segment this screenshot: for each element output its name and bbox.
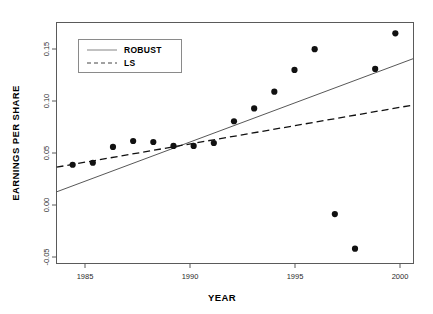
y-axis-tick-labels: 0.15 0.10 0.05 0.00 -0.05 <box>42 42 51 266</box>
data-point <box>372 66 378 72</box>
data-point <box>251 105 257 111</box>
robust-fit-line <box>57 59 414 192</box>
x-tick-label-3: 2000 <box>392 272 409 281</box>
fit-lines <box>57 59 414 192</box>
y-tick-label-1: 0.10 <box>42 94 51 109</box>
y-axis-ticks <box>52 49 57 257</box>
legend-label-ls: LS <box>124 58 135 68</box>
x-axis-tick-labels: 1985 1990 1995 2000 <box>77 272 409 281</box>
data-point <box>211 140 217 146</box>
ls-fit-line <box>57 105 414 167</box>
data-point <box>271 89 277 95</box>
data-point <box>191 143 197 149</box>
y-tick-label-4: -0.05 <box>42 248 51 265</box>
data-point <box>332 211 338 217</box>
data-point <box>352 246 358 252</box>
x-tick-label-1: 1990 <box>182 272 199 281</box>
data-point <box>291 67 297 73</box>
data-point <box>392 30 398 36</box>
legend-label-robust: ROBUST <box>124 45 162 55</box>
y-tick-label-0: 0.15 <box>42 42 51 57</box>
x-tick-label-2: 1995 <box>287 272 304 281</box>
data-point <box>150 139 156 145</box>
x-axis-ticks <box>85 264 400 269</box>
data-point <box>110 144 116 150</box>
data-point <box>130 138 136 144</box>
data-point <box>90 160 96 166</box>
data-point <box>231 118 237 124</box>
y-tick-label-2: 0.05 <box>42 146 51 161</box>
data-point <box>170 143 176 149</box>
earnings-per-share-scatter-chart: 0.15 0.10 0.05 0.00 -0.05 1985 1990 1995… <box>0 0 433 314</box>
legend: ROBUST LS <box>79 40 182 73</box>
data-point <box>312 46 318 52</box>
x-axis-title: YEAR <box>208 292 236 303</box>
y-tick-label-3: 0.00 <box>42 198 51 213</box>
x-tick-label-0: 1985 <box>77 272 94 281</box>
data-point <box>70 162 76 168</box>
y-axis-title: EARNINGS PER SHARE <box>10 85 21 200</box>
